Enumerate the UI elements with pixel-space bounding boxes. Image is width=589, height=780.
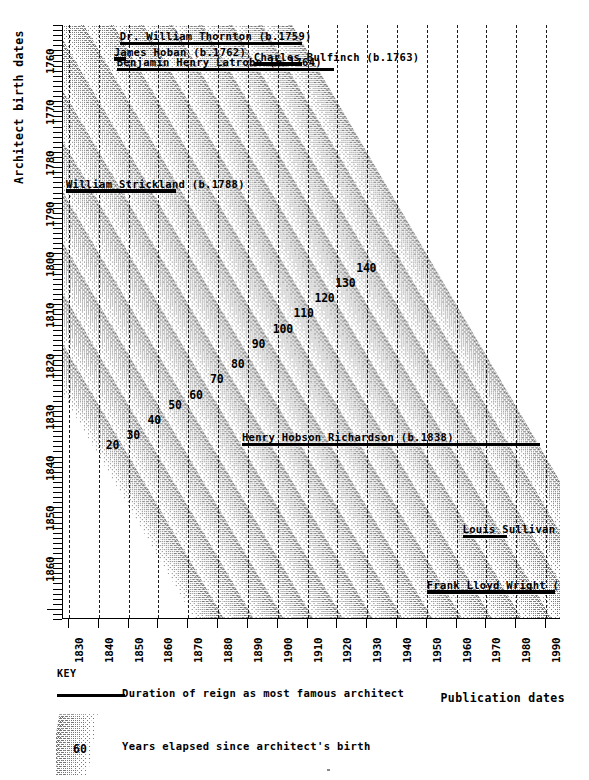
y-tick-minor: [53, 385, 62, 386]
x-tick-label: 1960: [461, 638, 474, 663]
y-tick-minor: [53, 396, 62, 397]
architect-reign-bar: [242, 443, 540, 446]
y-tick-minor: [53, 599, 62, 600]
y-tick-minor: [53, 81, 62, 82]
y-tick-minor: [53, 299, 62, 300]
x-tick-label: 1840: [103, 638, 116, 663]
x-tick-label: 1970: [490, 638, 503, 663]
y-tick-minor: [53, 142, 62, 143]
gridline-vertical: [158, 25, 159, 618]
band-value-label: 40: [147, 413, 160, 427]
y-tick-minor: [53, 335, 62, 336]
y-tick-minor: [53, 482, 62, 483]
x-tick-major: [396, 619, 397, 628]
y-tick-minor: [53, 233, 62, 234]
y-tick-minor: [53, 548, 62, 549]
band-value-label: 50: [168, 398, 181, 412]
x-tick-label: 1880: [222, 638, 235, 663]
y-tick-minor: [53, 187, 62, 188]
x-tick-label: 1910: [312, 638, 325, 663]
y-tick-minor: [53, 147, 62, 148]
gridline-vertical: [337, 25, 338, 618]
y-tick-minor: [53, 25, 62, 26]
stray-artifact-dot: [327, 769, 330, 771]
x-tick-major: [247, 619, 248, 628]
architect-reign-bar: [427, 590, 555, 593]
y-tick-minor: [53, 30, 62, 31]
x-tick-label: 1890: [252, 638, 265, 663]
architect-fame-chart: Architect birth dates 176017701780179018…: [0, 0, 589, 780]
y-tick-minor: [53, 294, 62, 295]
band-value-label: 70: [210, 372, 223, 386]
y-tick-minor: [53, 96, 62, 97]
y-tick-minor: [53, 502, 62, 503]
architect-name-label: Frank Lloyd Wright (b.1867): [427, 579, 560, 591]
y-tick-minor: [53, 380, 62, 381]
gridline-vertical: [218, 25, 219, 618]
architect-reign-bar: [66, 189, 176, 192]
y-tick-label: 1820: [44, 354, 57, 379]
x-tick-major: [68, 619, 69, 628]
architect-name-label: Henry Hobson Richardson (b.1838): [242, 431, 454, 443]
key-title: KEY: [57, 668, 77, 679]
x-tick-major: [277, 619, 278, 628]
architect-reign-bar: [117, 68, 335, 71]
x-tick-label: 1950: [431, 638, 444, 663]
band-value-label: 90: [252, 337, 265, 351]
y-tick-minor: [53, 589, 62, 590]
key-stipple-number: 60: [73, 742, 87, 756]
y-tick-minor: [53, 35, 62, 36]
band-value-label: 20: [106, 438, 119, 452]
gridline-vertical: [69, 25, 70, 618]
x-tick-major: [336, 619, 337, 628]
y-tick-minor: [53, 350, 62, 351]
y-tick-minor: [53, 492, 62, 493]
y-tick-minor: [53, 594, 62, 595]
y-tick-minor: [53, 441, 62, 442]
gridline-vertical: [308, 25, 309, 618]
gridline-vertical: [427, 25, 428, 618]
y-tick-label: 1830: [44, 404, 57, 429]
gridline-vertical: [188, 25, 189, 618]
y-tick-minor: [53, 193, 62, 194]
x-tick-major: [515, 619, 516, 628]
y-tick-minor: [53, 446, 62, 447]
y-tick-minor: [53, 553, 62, 554]
y-tick-label: 1840: [44, 455, 57, 480]
x-tick-major: [485, 619, 486, 628]
y-axis-title: Architect birth dates: [12, 30, 26, 184]
y-tick-label: 1860: [44, 557, 57, 582]
x-tick-label: 1940: [401, 638, 414, 663]
y-tick-minor: [53, 127, 62, 128]
y-tick-label: 1850: [44, 506, 57, 531]
x-tick-major: [456, 619, 457, 628]
y-tick-label: 1790: [44, 201, 57, 226]
gridline-vertical: [367, 25, 368, 618]
architect-reign-bar: [463, 535, 508, 538]
y-tick-minor: [53, 279, 62, 280]
y-tick-minor: [53, 284, 62, 285]
y-tick-minor: [53, 86, 62, 87]
x-tick-major: [307, 619, 308, 628]
y-tick-minor: [53, 604, 62, 605]
y-tick-minor: [53, 345, 62, 346]
chart-key: KEY Duration of reign as most famous arc…: [0, 668, 589, 780]
x-tick-label: 1860: [162, 638, 175, 663]
y-tick-minor: [53, 431, 62, 432]
y-tick-minor: [53, 177, 62, 178]
band-value-label: 100: [273, 322, 293, 336]
x-tick-major: [187, 619, 188, 628]
y-tick-minor: [53, 182, 62, 183]
y-tick-minor: [53, 137, 62, 138]
architect-name-label: Dr. William Thornton (b.1759): [120, 30, 312, 42]
band-value-label: 110: [294, 306, 314, 320]
y-tick-label: 1800: [44, 252, 57, 277]
x-tick-major: [128, 619, 129, 628]
architect-name-label: Louis Sullivan (b.1856): [463, 523, 560, 535]
band-value-label: 80: [231, 357, 244, 371]
y-tick-minor: [53, 238, 62, 239]
y-tick-label: 1760: [44, 49, 57, 74]
x-tick-label: 1930: [371, 638, 384, 663]
band-value-label: 30: [127, 428, 140, 442]
gridline-vertical: [129, 25, 130, 618]
